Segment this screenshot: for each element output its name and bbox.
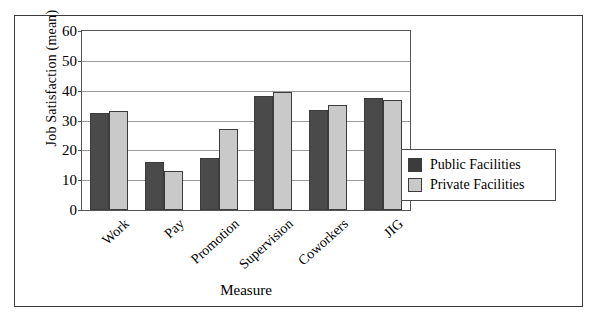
legend-swatch-public-icon (408, 158, 422, 172)
bar (364, 98, 383, 210)
y-tick-label: 50 (62, 53, 77, 68)
figure-frame: Job Satisfaction (mean) 0102030405060 Wo… (14, 15, 583, 307)
x-tick-label: JIG (381, 216, 407, 241)
y-tick-label: 0 (70, 203, 78, 218)
bar-group (246, 31, 301, 210)
y-tick-label: 60 (62, 24, 77, 39)
bar-group (137, 31, 192, 210)
bar (90, 113, 109, 210)
plot-area: 0102030405060 (81, 30, 411, 211)
bar (219, 129, 238, 210)
x-tick-label: Coworkers (295, 216, 351, 269)
legend-label-private: Private Facilities (430, 177, 524, 193)
bar (200, 158, 219, 210)
legend-swatch-private-icon (408, 178, 422, 192)
y-tick-label: 30 (62, 113, 77, 128)
y-tick-mark (78, 210, 82, 211)
bar-group (82, 31, 137, 210)
bar (145, 162, 164, 210)
legend-item: Public Facilities (408, 155, 549, 175)
bar (273, 92, 292, 210)
bar (328, 105, 347, 210)
y-axis-title: Job Satisfaction (mean) (44, 0, 60, 168)
y-tick-label: 20 (62, 143, 77, 158)
chart-legend: Public Facilities Private Facilities (401, 149, 556, 201)
y-tick-label: 10 (62, 173, 77, 188)
legend-label-public: Public Facilities (430, 157, 521, 173)
bar (383, 100, 402, 210)
bar (109, 111, 128, 210)
bar (164, 171, 183, 210)
bar-group (301, 31, 356, 210)
y-tick-label: 40 (62, 83, 77, 98)
bar-group (191, 31, 246, 210)
x-axis-title: Measure (81, 282, 411, 299)
legend-item: Private Facilities (408, 175, 549, 195)
bar (254, 96, 273, 210)
x-tick-label: Promotion (188, 216, 243, 267)
x-tick-label: Work (99, 216, 133, 248)
x-tick-label: Pay (161, 216, 187, 242)
bar (309, 110, 328, 210)
bars-layer (82, 31, 410, 210)
x-tick-label: Supervision (237, 216, 297, 273)
